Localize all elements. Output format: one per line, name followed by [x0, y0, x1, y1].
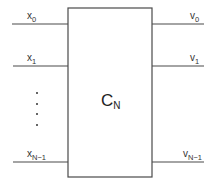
vertical-ellipsis-icon: [36, 92, 38, 126]
ellipsis-dot: [36, 113, 38, 115]
block-diagram: x0 x1 xN−1 v0 v1 vN−1 CN: [0, 0, 222, 191]
ellipsis-dot: [36, 92, 38, 94]
output-label-v0: v0: [190, 10, 199, 24]
input-label-xn-1: xN−1: [27, 148, 46, 162]
ellipsis-dot: [36, 103, 38, 105]
input-label-x1: x1: [27, 52, 36, 66]
output-label-v1: v1: [190, 52, 199, 66]
output-label-vn-1: vN−1: [183, 148, 202, 162]
ellipsis-dot: [36, 124, 38, 126]
input-label-x0: x0: [27, 10, 36, 24]
